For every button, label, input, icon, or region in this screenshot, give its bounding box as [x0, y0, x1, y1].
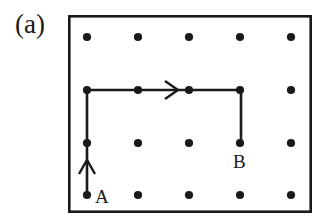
lattice-dot [287, 33, 295, 41]
lattice-dot [185, 139, 193, 147]
lattice-dot [236, 33, 244, 41]
lattice-dot [287, 139, 295, 147]
figure-panel: (a) A B [0, 0, 333, 221]
vertex-label-a: A [95, 186, 109, 207]
lattice-dot [236, 191, 244, 199]
figure-frame [69, 16, 310, 211]
lattice-dot [287, 86, 295, 94]
lattice-dot [185, 191, 193, 199]
vertex-label-b: B [233, 151, 246, 172]
lattice-dot [134, 191, 142, 199]
lattice-dot [134, 33, 142, 41]
lattice-diagram: A B [0, 0, 333, 221]
lattice-dot [83, 33, 91, 41]
lattice-dot [185, 33, 193, 41]
lattice-dots [83, 33, 295, 199]
lattice-dot [287, 191, 295, 199]
directed-path [79, 81, 241, 195]
lattice-dot [134, 139, 142, 147]
path-polyline [87, 90, 241, 195]
